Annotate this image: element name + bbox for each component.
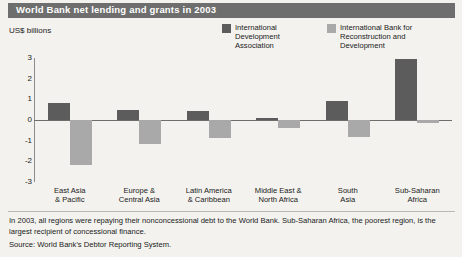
figure-container: World Bank net lending and grants in 200… bbox=[0, 0, 462, 257]
bar-ida bbox=[117, 110, 139, 120]
legend-swatch-icon bbox=[222, 24, 231, 33]
bar-ibrd bbox=[348, 120, 370, 137]
legend-label: International Development Association bbox=[235, 23, 311, 51]
y-axis-tick-label: 3 bbox=[16, 53, 32, 62]
y-axis-tick-label: 2 bbox=[16, 74, 32, 83]
chart-footnote: In 2003, all regions were repaying their… bbox=[9, 216, 449, 237]
bar-ida bbox=[256, 118, 278, 120]
x-axis-category-label: East Asia& Pacific bbox=[31, 186, 109, 205]
bar-ida bbox=[187, 111, 209, 120]
bar-ibrd bbox=[139, 120, 161, 144]
y-axis-tick-labels: 3210-1-2-3 bbox=[14, 55, 32, 185]
x-axis-category-label: SouthAsia bbox=[309, 186, 387, 205]
x-axis-category-label: Middle East &North Africa bbox=[240, 186, 318, 205]
bar-group bbox=[244, 58, 314, 182]
plot-area: 3210-1-2-3 bbox=[14, 55, 452, 185]
legend-item-ibrd: International Bank for Reconstruction an… bbox=[327, 23, 416, 51]
bar-group bbox=[174, 58, 244, 182]
page-title: World Bank net lending and grants in 200… bbox=[16, 4, 216, 15]
footnote-divider bbox=[8, 211, 455, 212]
bar-group bbox=[313, 58, 383, 182]
legend-label: International Bank for Reconstruction an… bbox=[340, 23, 416, 51]
bar-ida bbox=[326, 101, 348, 120]
legend-swatch-icon bbox=[327, 24, 336, 33]
x-axis-category-label: Sub-SaharanAfrica bbox=[379, 186, 457, 205]
axis-units-label: US$ billions bbox=[9, 26, 51, 35]
bar-group bbox=[105, 58, 175, 182]
chart-source: Source: World Bank's Debtor Reporting Sy… bbox=[9, 240, 449, 251]
x-axis-category-label: Europe &Central Asia bbox=[101, 186, 179, 205]
bar-groups bbox=[35, 58, 452, 182]
bar-group bbox=[35, 58, 105, 182]
bar-ibrd bbox=[278, 120, 300, 128]
bar-group bbox=[383, 58, 453, 182]
y-axis-tick-label: 0 bbox=[16, 115, 32, 124]
legend-item-ida: International Development Association bbox=[222, 23, 311, 51]
x-axis-category-labels: East Asia& PacificEurope &Central AsiaLa… bbox=[35, 186, 455, 208]
chart-title-bar: World Bank net lending and grants in 200… bbox=[8, 3, 455, 18]
bar-ibrd bbox=[70, 120, 92, 165]
y-axis-tick-label: -3 bbox=[16, 177, 32, 186]
y-axis-tick-label: -2 bbox=[16, 156, 32, 165]
y-axis-tick-label: 1 bbox=[16, 94, 32, 103]
bar-ida bbox=[395, 59, 417, 120]
bar-ibrd bbox=[417, 120, 439, 123]
chart-legend: International Development AssociationInt… bbox=[222, 23, 416, 51]
bar-ibrd bbox=[209, 120, 231, 138]
x-axis-category-label: Latin America& Caribbean bbox=[170, 186, 248, 205]
bar-ida bbox=[48, 103, 70, 120]
y-axis-tick-label: -1 bbox=[16, 136, 32, 145]
